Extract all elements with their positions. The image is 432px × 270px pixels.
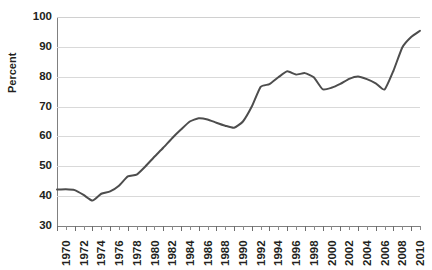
x-tick-label-2004: 2004 xyxy=(362,240,374,266)
x-tick-label-1982: 1982 xyxy=(167,240,179,266)
x-tick-1976 xyxy=(110,226,111,231)
x-tick-1972 xyxy=(75,226,76,231)
x-tick-1975 xyxy=(101,226,102,230)
x-tick-label-1992: 1992 xyxy=(256,240,268,266)
x-tick-label-1976: 1976 xyxy=(114,240,126,266)
x-tick-2007 xyxy=(385,226,386,230)
x-tick-1999 xyxy=(314,226,315,230)
x-tick-1985 xyxy=(190,226,191,230)
x-tick-1993 xyxy=(261,226,262,230)
x-tick-2001 xyxy=(331,226,332,230)
x-tick-label-1988: 1988 xyxy=(220,240,232,266)
x-tick-1980 xyxy=(146,226,147,231)
x-tick-1983 xyxy=(172,226,173,230)
y-tick-label-90: 90 xyxy=(12,41,52,53)
x-tick-1981 xyxy=(154,226,155,230)
x-tick-label-1984: 1984 xyxy=(185,240,197,266)
x-axis-tick-labels: 1970197219741976197819801982198419861988… xyxy=(57,232,420,270)
x-tick-2010 xyxy=(411,226,412,231)
x-tick-1978 xyxy=(128,226,129,231)
x-tick-1996 xyxy=(287,226,288,231)
x-tick-2009 xyxy=(402,226,403,230)
x-tick-label-2006: 2006 xyxy=(380,240,392,266)
y-tick-label-40: 40 xyxy=(12,190,52,202)
x-tick-label-1986: 1986 xyxy=(203,240,215,266)
x-tick-label-1974: 1974 xyxy=(96,240,108,266)
y-axis-tick-labels: 30405060708090100 xyxy=(7,17,52,226)
y-tick-label-60: 60 xyxy=(12,131,52,143)
x-tick-1988 xyxy=(216,226,217,231)
x-tick-1971 xyxy=(66,226,67,230)
x-tick-1995 xyxy=(278,226,279,230)
x-tick-1974 xyxy=(92,226,93,231)
x-tick-label-1998: 1998 xyxy=(309,240,321,266)
data-series-line xyxy=(57,17,420,226)
x-tick-2005 xyxy=(367,226,368,230)
x-tick-1977 xyxy=(119,226,120,230)
x-tick-2011 xyxy=(420,226,421,230)
x-axis-ticks xyxy=(57,226,420,231)
chart-container: Percent 30405060708090100 19701972197419… xyxy=(0,0,432,270)
x-tick-1991 xyxy=(243,226,244,230)
y-tick-label-30: 30 xyxy=(12,220,52,232)
x-tick-1992 xyxy=(252,226,253,231)
x-tick-1970 xyxy=(57,226,58,231)
x-tick-label-1990: 1990 xyxy=(238,240,250,266)
x-tick-1982 xyxy=(163,226,164,231)
x-tick-2008 xyxy=(393,226,394,231)
x-tick-1998 xyxy=(305,226,306,231)
x-tick-2003 xyxy=(349,226,350,230)
y-tick-label-80: 80 xyxy=(12,71,52,83)
plot-area xyxy=(57,17,420,226)
x-tick-label-2000: 2000 xyxy=(327,240,339,266)
x-tick-2002 xyxy=(340,226,341,231)
x-tick-label-1994: 1994 xyxy=(273,240,285,266)
x-tick-1986 xyxy=(199,226,200,231)
x-tick-label-2008: 2008 xyxy=(397,240,409,266)
y-tick-label-50: 50 xyxy=(12,161,52,173)
x-tick-1989 xyxy=(225,226,226,230)
x-tick-1979 xyxy=(137,226,138,230)
x-tick-label-1972: 1972 xyxy=(79,240,91,266)
x-tick-label-2010: 2010 xyxy=(415,240,427,266)
x-tick-label-2002: 2002 xyxy=(344,240,356,266)
x-tick-1990 xyxy=(234,226,235,231)
x-tick-label-1996: 1996 xyxy=(291,240,303,266)
x-tick-1997 xyxy=(296,226,297,230)
x-tick-1973 xyxy=(84,226,85,230)
x-tick-1987 xyxy=(208,226,209,230)
x-tick-2004 xyxy=(358,226,359,231)
x-tick-2000 xyxy=(323,226,324,231)
x-tick-1994 xyxy=(269,226,270,231)
x-tick-1984 xyxy=(181,226,182,231)
x-tick-2006 xyxy=(376,226,377,231)
x-tick-label-1978: 1978 xyxy=(132,240,144,266)
x-tick-label-1980: 1980 xyxy=(150,240,162,266)
x-tick-label-1970: 1970 xyxy=(61,240,73,266)
y-tick-label-70: 70 xyxy=(12,101,52,113)
series-path xyxy=(57,31,420,201)
y-tick-label-100: 100 xyxy=(12,11,52,23)
